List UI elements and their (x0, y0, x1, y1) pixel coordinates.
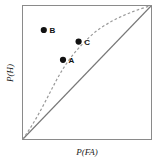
point-marker-c (76, 39, 82, 45)
roc-figure: B C A P(FA) P(H) (0, 0, 161, 166)
point-label-a: A (69, 56, 75, 65)
roc-plot-svg: B C A P(FA) P(H) (0, 0, 161, 166)
x-axis-label: P(FA) (75, 147, 97, 157)
chance-diagonal-line (23, 6, 152, 140)
point-marker-b (41, 27, 47, 33)
point-label-b: B (50, 26, 56, 35)
point-label-c: C (84, 38, 90, 47)
data-point-a: A (60, 56, 75, 65)
data-point-b: B (41, 26, 56, 35)
data-point-c: C (76, 38, 91, 47)
point-marker-a (60, 57, 66, 63)
y-axis-label: P(H) (5, 64, 15, 83)
